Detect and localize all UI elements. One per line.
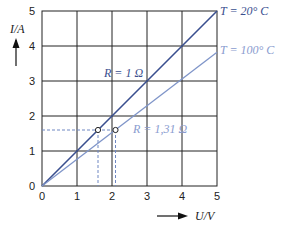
y-tick-1: 1	[29, 145, 35, 157]
x-axis-label: U/V	[195, 209, 216, 223]
y-axis-arrow-icon	[13, 38, 20, 66]
x-tick-4: 4	[179, 190, 185, 202]
x-axis-arrow-icon	[157, 213, 188, 220]
x-tick-5: 5	[214, 190, 220, 202]
y-tick-5: 5	[29, 5, 35, 17]
annotation-r2: R = 1,31 Ω	[132, 122, 187, 136]
marker-point-100c	[113, 127, 118, 132]
series-line-20c	[42, 11, 217, 186]
marker-point-20c	[95, 127, 100, 132]
x-tick-0: 0	[39, 190, 45, 202]
x-tick-3: 3	[144, 190, 150, 202]
y-tick-labels: 0 1 2 3 4 5	[29, 5, 35, 192]
y-tick-0: 0	[29, 180, 35, 192]
legend-label-20c: T = 20° C	[220, 4, 269, 18]
current-voltage-chart: 0 1 2 3 4 5 0 1 2 3 4 5 I/A U/V T = 20° …	[0, 0, 283, 230]
y-tick-4: 4	[29, 40, 35, 52]
y-tick-3: 3	[29, 75, 35, 87]
y-axis-label: I/A	[9, 22, 25, 36]
annotation-r1: R = 1 Ω	[103, 66, 143, 80]
x-tick-1: 1	[74, 190, 80, 202]
legend-label-100c: T = 100° C	[220, 43, 275, 57]
x-tick-2: 2	[109, 190, 115, 202]
y-tick-2: 2	[29, 110, 35, 122]
x-tick-labels: 0 1 2 3 4 5	[39, 190, 220, 202]
